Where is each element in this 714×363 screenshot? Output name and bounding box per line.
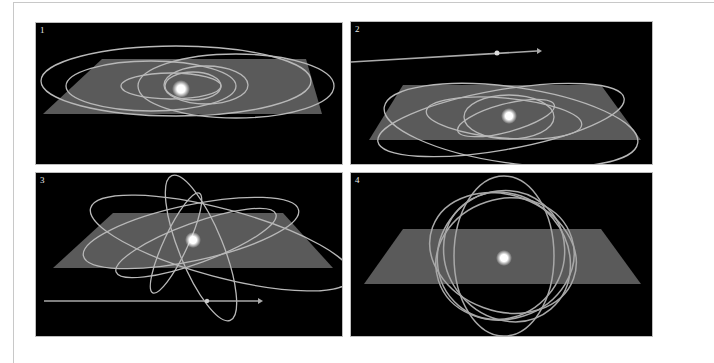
panel-label: 4 — [355, 175, 360, 185]
passing-body-icon — [495, 51, 500, 56]
panel-label: 3 — [40, 175, 45, 185]
panel-4: 4 — [351, 173, 652, 336]
arrowhead-icon — [537, 48, 542, 54]
orbit-diagram-3 — [36, 173, 342, 336]
orbit-diagram-1 — [36, 23, 342, 164]
panel-1: 1 — [36, 23, 342, 164]
panel-label: 2 — [355, 24, 360, 34]
central-star-icon — [185, 232, 201, 248]
central-star-icon — [172, 80, 190, 98]
trajectory-arrow — [351, 51, 537, 62]
arrowhead-icon — [258, 298, 263, 304]
panel-3: 3 — [36, 173, 342, 336]
central-star-icon — [501, 108, 517, 124]
passing-body-icon — [205, 299, 209, 303]
orbit-diagram-2 — [351, 22, 652, 164]
panel-label: 1 — [40, 25, 45, 35]
panel-2: 2 — [351, 22, 652, 164]
orbit-diagram-4 — [351, 173, 652, 336]
central-star-icon — [496, 250, 512, 266]
